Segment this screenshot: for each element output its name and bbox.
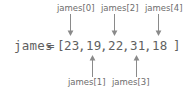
arrow-down-index-4 [153,14,164,36]
arrow-up-index-3 [131,55,142,77]
label-index-4: james[4] [145,3,183,14]
label-index-0: james[0] [57,3,95,14]
bracket-close: ] [173,36,181,55]
code-line: james = [ 23 , 19 , 22 , 31 , 18 ] [0,36,190,55]
arrow-down-index-0 [65,14,76,36]
arrow-down-index-2 [109,14,120,36]
list-separator-2: , [122,36,130,55]
list-separator-3: , [144,36,152,55]
list-separator-0: , [78,36,86,55]
list-value-4: 18 [152,36,167,55]
list-index-diagram: james[0] james[2] james[4] james = [ 23 … [0,0,190,93]
list-separator-1: , [100,36,108,55]
label-index-3: james[3] [112,77,150,88]
assignment-operator: = [47,36,55,55]
arrow-up-index-1 [87,55,98,77]
label-index-2: james[2] [101,3,139,14]
label-index-1: james[1] [68,77,106,88]
